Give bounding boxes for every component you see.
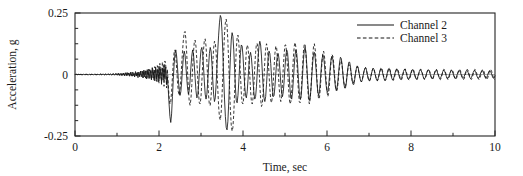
x-tick-label: 10 [489, 141, 501, 153]
x-axis-ticks [75, 131, 495, 137]
x-tick-label: 0 [72, 141, 78, 153]
x-tick-label: 6 [324, 141, 330, 153]
y-axis-title: Acceleration, g [6, 39, 19, 109]
y-tick-label: 0 [62, 69, 68, 81]
legend-label-channel-3: Channel 3 [400, 32, 447, 44]
x-axis-tick-labels: 0246810 [72, 141, 501, 153]
legend-entry-channel-2[interactable]: Channel 2 [357, 19, 447, 31]
x-tick-label: 4 [240, 141, 246, 153]
accelerogram-figure: -0.2500.25 0246810 Time, sec Acceleratio… [0, 0, 523, 176]
x-tick-label: 8 [408, 141, 414, 153]
y-tick-label: -0.25 [44, 130, 68, 142]
legend-label-channel-2: Channel 2 [400, 19, 447, 31]
x-tick-label: 2 [156, 141, 162, 153]
y-axis-tick-labels: -0.2500.25 [44, 7, 68, 142]
y-axis-ticks [75, 13, 81, 136]
y-tick-label: 0.25 [48, 7, 68, 19]
legend-entry-channel-3[interactable]: Channel 3 [357, 32, 447, 44]
chart-legend: Channel 2 Channel 3 [357, 19, 447, 44]
x-axis-title: Time, sec [263, 161, 307, 174]
acceleration-time-history-chart: -0.2500.25 0246810 Time, sec Acceleratio… [0, 0, 523, 176]
